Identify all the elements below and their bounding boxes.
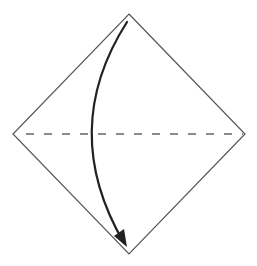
origami-diagram	[0, 0, 257, 266]
background	[0, 0, 257, 266]
